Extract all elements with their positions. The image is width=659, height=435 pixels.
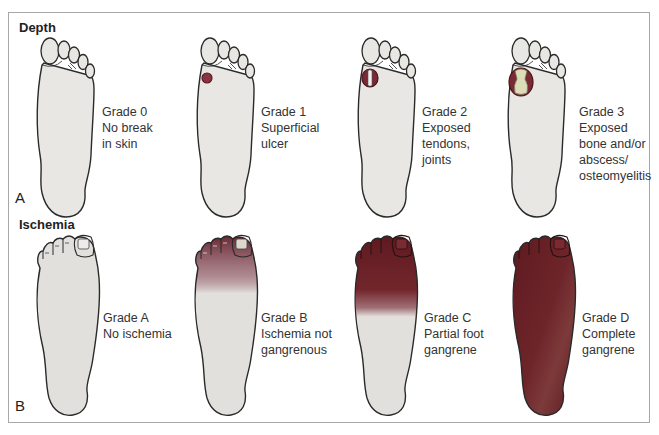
caption-grade-a: Grade A No ischemia (103, 310, 172, 342)
caption-grade-3: Grade 3 Exposed bone and/or abscess/ ost… (579, 104, 651, 184)
panel-b-letter: B (15, 397, 25, 414)
caption-grade-1: Grade 1 Superficial ulcer (261, 104, 319, 152)
foot-grade-a (37, 235, 99, 415)
superficial-ulcer (202, 73, 212, 83)
caption-grade-b: Grade B Ischemia not gangrenous (261, 310, 332, 358)
caption-grade-c: Grade C Partial foot gangrene (424, 310, 484, 358)
foot-grade-d (513, 235, 575, 415)
caption-grade-0: Grade 0 No break in skin (102, 104, 153, 152)
foot-grade-1 (197, 38, 254, 217)
foot-grade-b (195, 235, 257, 415)
panel-b-title: Ischemia (19, 217, 75, 232)
caption-grade-d: Grade D Complete gangrene (582, 310, 636, 358)
foot-grade-3 (508, 38, 565, 217)
caption-grade-2: Grade 2 Exposed tendons, joints (422, 104, 471, 168)
foot-grade-0 (37, 38, 94, 217)
foot-illustrations (0, 0, 659, 435)
foot-grade-2 (358, 38, 415, 217)
foot-grade-c (355, 235, 417, 415)
